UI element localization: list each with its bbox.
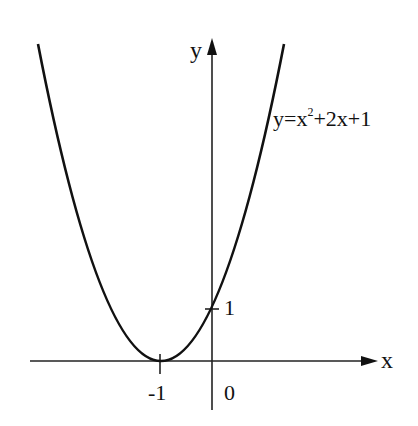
equation-label: y=x2+2x+1 [273, 108, 371, 130]
parabola-graph: y x y=x2+2x+1 1 -1 0 [0, 0, 418, 426]
tick-label-y-one: 1 [224, 297, 235, 319]
origin-label: 0 [224, 382, 235, 404]
y-axis-arrow-icon [207, 38, 217, 55]
plot-area [0, 0, 418, 426]
x-axis-label: x [381, 348, 393, 372]
equation-exponent: 2 [307, 105, 313, 119]
x-axis-arrow-icon [361, 356, 378, 366]
parabola-curve [38, 44, 284, 361]
y-axis-label: y [190, 38, 202, 62]
tick-label-x-minus-one: -1 [148, 382, 166, 404]
equation-prefix: y=x [273, 106, 307, 131]
equation-suffix: +2x+1 [313, 106, 371, 131]
